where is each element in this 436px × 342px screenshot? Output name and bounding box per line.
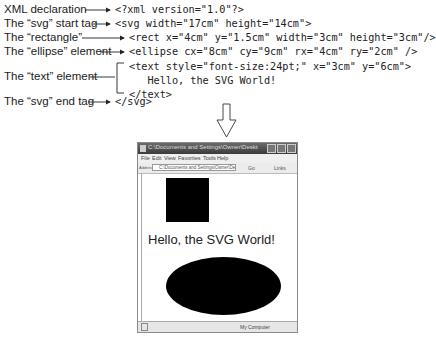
address-input[interactable]: C:\Documents and Settings\Owner\Desktop\ (152, 164, 236, 171)
title-bar: C:\Documents and Settings\Owner\Desktop\… (138, 143, 297, 154)
rendered-rectangle (166, 178, 209, 222)
menu-edit[interactable]: Edit (152, 155, 161, 161)
menu-tools[interactable]: Tools (203, 155, 216, 161)
menu-file[interactable]: File (141, 155, 150, 161)
text-element-bracket (117, 63, 124, 93)
menu-view[interactable]: View (164, 155, 176, 161)
menu-favorites[interactable]: Favorites (178, 155, 201, 161)
menu-bar: File Edit View Favorites Tools Help (138, 154, 297, 163)
address-bar: Address C:\Documents and Settings\Owner\… (138, 163, 297, 174)
minimize-button[interactable] (267, 144, 276, 153)
go-button[interactable]: Go (248, 165, 255, 171)
window-title: C:\Documents and Settings\Owner\Desktop\… (148, 144, 258, 150)
down-arrow-icon (217, 104, 236, 137)
rendered-text: Hello, the SVG World! (148, 232, 275, 247)
maximize-button[interactable] (277, 144, 286, 153)
close-button[interactable] (287, 144, 296, 153)
links-label[interactable]: Links (274, 165, 286, 171)
rendered-ellipse (166, 257, 281, 315)
status-bar: My Computer (138, 321, 297, 332)
menu-help[interactable]: Help (217, 155, 228, 161)
status-zone: My Computer (240, 324, 270, 330)
svg-render-area: Hello, the SVG World! (141, 174, 294, 322)
browser-window: C:\Documents and Settings\Owner\Desktop\… (137, 142, 298, 333)
page-icon (141, 323, 148, 331)
ie-app-icon (140, 145, 146, 152)
